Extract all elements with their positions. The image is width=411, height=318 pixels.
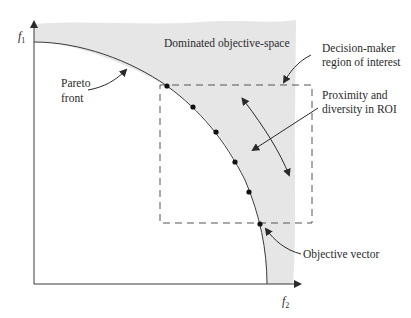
dominated-label: Dominated objective-space <box>164 37 290 50</box>
pareto-label-1: Pareto <box>61 77 91 89</box>
pareto-arrow <box>88 70 126 90</box>
x-axis-label: f2 <box>282 294 289 310</box>
dominated-region <box>34 20 296 284</box>
objective-vector-label: Objective vector <box>303 248 379 261</box>
roi-label-1: Decision-maker <box>322 42 396 54</box>
pareto-diagram: f1 f2 Dominated objective-space Pareto f… <box>0 0 411 318</box>
y-axis-label: f1 <box>18 29 25 45</box>
prox-label-2: diversity in ROI <box>322 103 397 116</box>
roi-label-2: region of interest <box>322 56 401 69</box>
pareto-label-2: front <box>61 92 84 104</box>
prox-label-1: Proximity and <box>322 89 388 102</box>
